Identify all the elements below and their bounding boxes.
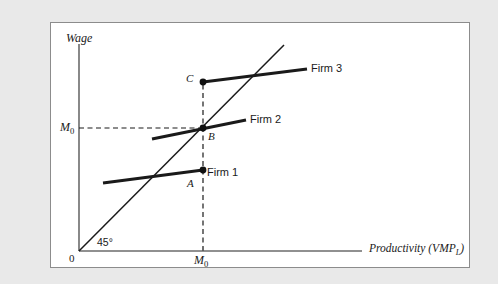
point-c-label: C — [186, 73, 193, 84]
firm1-label: Firm 1 — [207, 167, 238, 178]
x-tick-subscript: 0 — [204, 259, 208, 269]
firm2-label: Firm 2 — [250, 114, 281, 125]
figure-panel — [50, 22, 470, 268]
x-axis-tick-label-m0: M0 — [194, 254, 208, 269]
x-axis-label-prefix: Productivity (VMP — [369, 242, 456, 254]
x-axis-label-suffix: ) — [460, 242, 464, 254]
firm3-label: Firm 3 — [311, 63, 342, 74]
x-axis-label: Productivity (VMPL) — [369, 243, 464, 258]
y-axis-tick-label-m0: M0 — [60, 121, 74, 136]
point-a-label: A — [187, 178, 194, 189]
point-b-label: B — [208, 131, 215, 142]
y-axis-label: Wage — [66, 32, 92, 44]
forty-five-degree-label: 45° — [97, 237, 113, 248]
origin-label: 0 — [69, 253, 75, 264]
y-tick-subscript: 0 — [70, 126, 74, 136]
y-tick-letter: M — [60, 120, 70, 134]
x-tick-letter: M — [194, 253, 204, 267]
